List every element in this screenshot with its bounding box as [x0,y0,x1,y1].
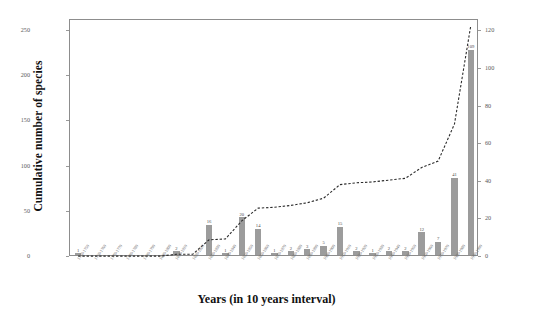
y-right-tick-mark [478,143,481,144]
y-left-tick-label: 200 [0,71,30,78]
y-axis-left-title: Cumulative number of species [32,36,44,236]
y-left-tick-mark [66,166,69,167]
y-left-tick-mark [66,120,69,121]
y-right-tick-label: 80 [485,102,525,109]
y-right-tick-label: 40 [485,177,525,184]
y-right-tick-label: 60 [485,139,525,146]
y-right-tick-mark [478,106,481,107]
y-left-tick-label: 150 [0,116,30,123]
cumulative-line-path [78,25,471,256]
y-right-tick-label: 20 [485,214,525,221]
y-right-tick-label: 100 [485,64,525,71]
y-right-tick-mark [478,68,481,69]
y-right-tick-label: 120 [485,26,525,33]
y-right-tick-label: 0 [485,252,525,259]
y-right-tick-mark [478,181,481,182]
plot-area: 121612014123515212212741109 [69,19,478,256]
y-left-tick-label: 250 [0,26,30,33]
y-left-tick-label: 100 [0,162,30,169]
y-right-tick-mark [478,30,481,31]
chart-figure: Cumulative number of species No. of new … [0,0,533,318]
y-left-tick-label: 50 [0,207,30,214]
y-right-tick-mark [478,256,481,257]
cumulative-line-series [70,20,479,257]
y-left-tick-mark [66,256,69,257]
y-right-tick-mark [478,218,481,219]
x-axis-title: Years (in 10 years interval) [0,292,533,307]
y-left-tick-mark [66,30,69,31]
y-left-tick-label: 0 [0,252,30,259]
y-left-tick-mark [66,75,69,76]
y-left-tick-mark [66,211,69,212]
